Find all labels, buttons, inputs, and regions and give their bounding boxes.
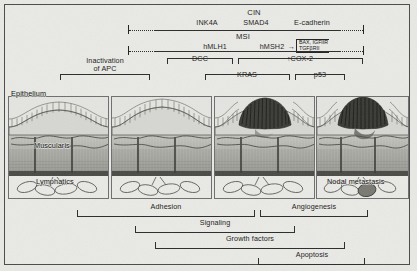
bracket-apc	[60, 74, 150, 80]
cin-line-dotted-right	[340, 30, 363, 31]
gene-label-smad4: SMAD4	[243, 19, 268, 26]
msi-line-right-cap	[363, 46, 364, 55]
msi-line-solid	[155, 51, 340, 52]
tissue-panel-carcinoma	[214, 96, 315, 199]
tissue-label-nodal-metastasis: Nodal metastasis	[327, 177, 385, 186]
process-label-angiogenesis: Angiogenesis	[292, 203, 336, 210]
tissue-label-muscularis: Muscularis	[34, 141, 70, 150]
tissue-label-epithelium: Epithelium	[11, 89, 46, 98]
bracket-growth-factors	[155, 242, 345, 249]
bracket-label-apc-line2: of APC	[94, 65, 117, 72]
pathway-heading-cin: CIN	[247, 9, 260, 17]
gene-label-hmlh1: hMLH1	[203, 43, 227, 50]
cin-line-right-cap	[363, 25, 364, 34]
bracket-label-p53: p53	[314, 71, 326, 78]
bracket-angiogenesis	[260, 210, 368, 217]
bracket-adhesion	[77, 210, 255, 217]
bracket-label-dcc: DCC	[192, 55, 208, 62]
cin-line-solid	[155, 30, 340, 31]
bracket-label-cox2: ↑COX-2	[287, 55, 313, 62]
process-label-growth-factors: Growth factors	[226, 235, 274, 242]
pathway-heading-msi: MSI	[236, 33, 250, 41]
bracket-apoptosis	[258, 258, 365, 265]
tissue-panel-adenoma	[111, 96, 212, 199]
process-label-apoptosis: Apoptosis	[296, 251, 328, 258]
process-label-signaling: Signaling	[200, 219, 230, 226]
gene-label-ink4a: INK4A	[196, 19, 217, 26]
figure-root: CIN INK4A SMAD4 E-cadherin MSI hMLH1 hMS…	[0, 0, 417, 271]
bracket-label-kras: KRAS	[237, 71, 257, 78]
tissue-label-lymphatics: Lymphatics	[36, 177, 74, 186]
process-label-adhesion: Adhesion	[151, 203, 182, 210]
msi-line-dotted-left	[129, 51, 155, 52]
msi-line-dotted-right	[340, 51, 363, 52]
gene-label-e-cadherin: E-cadherin	[294, 19, 330, 26]
gene-label-hmsh2: hMSH2	[260, 43, 284, 50]
msi-arrow-icon: →	[288, 43, 295, 50]
cin-line-dotted-left	[129, 30, 155, 31]
bracket-signaling	[135, 226, 295, 233]
